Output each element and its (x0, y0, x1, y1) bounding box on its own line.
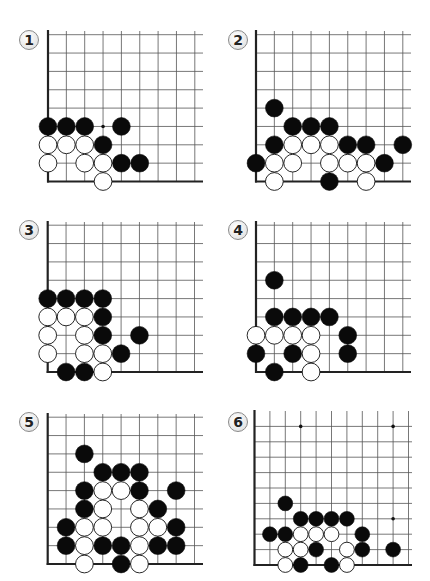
black-stone (324, 511, 339, 526)
white-stone (278, 542, 293, 557)
black-stone (278, 527, 293, 542)
black-stone (263, 527, 278, 542)
black-stone (309, 511, 324, 526)
star-point (299, 425, 303, 429)
white-stone (278, 558, 293, 573)
black-stone (386, 542, 401, 557)
black-stone (293, 511, 308, 526)
black-stone (309, 542, 324, 557)
black-stone (293, 558, 308, 573)
star-point (391, 425, 395, 429)
white-stone (340, 558, 355, 573)
white-stone (293, 527, 308, 542)
go-board (0, 0, 430, 581)
white-stone (293, 542, 308, 557)
problem-number-badge: 6 (228, 412, 248, 432)
black-stone (355, 527, 370, 542)
white-stone (309, 527, 324, 542)
white-stone (324, 527, 339, 542)
black-stone (324, 558, 339, 573)
white-stone (340, 542, 355, 557)
black-stone (355, 542, 370, 557)
black-stone (340, 511, 355, 526)
black-stone (278, 496, 293, 511)
star-point (391, 517, 395, 521)
go-problems-page: 1 2 3 4 5 6 (0, 0, 430, 581)
